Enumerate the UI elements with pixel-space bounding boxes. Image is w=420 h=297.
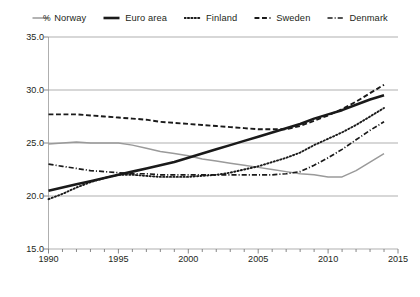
plot-area <box>0 0 420 297</box>
series-line-sweden <box>49 85 385 130</box>
series-line-norway <box>49 142 385 177</box>
line-chart: NorwayEuro areaFinlandSwedenDenmark % 35… <box>0 0 420 297</box>
